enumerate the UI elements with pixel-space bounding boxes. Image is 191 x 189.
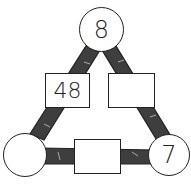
right-box[interactable] — [108, 73, 155, 108]
top-circle[interactable]: 8 — [79, 7, 124, 52]
bottom-left-circle[interactable] — [3, 133, 47, 177]
left-box[interactable]: 48 — [45, 73, 90, 108]
bottom-box[interactable] — [74, 139, 121, 174]
multiplication-triangle: 8 48 7 — [0, 0, 191, 189]
bottom-right-circle[interactable]: 7 — [148, 134, 190, 176]
